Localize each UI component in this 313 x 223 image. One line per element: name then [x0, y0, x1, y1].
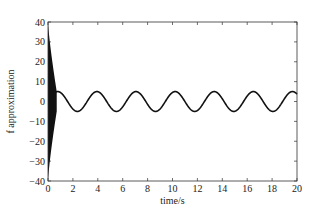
- y-tick-label: 0: [40, 96, 45, 107]
- y-tick-labels: −40−30−20−10010203040: [29, 17, 45, 187]
- x-tick-label: 8: [145, 183, 150, 194]
- x-tick-label: 12: [192, 183, 202, 194]
- chart: 02468101214161820 −40−30−20−10010203040 …: [0, 0, 313, 223]
- y-tick-label: −10: [29, 116, 45, 127]
- x-tick-labels: 02468101214161820: [46, 183, 303, 194]
- x-tick-label: 10: [168, 183, 178, 194]
- x-tick-label: 6: [120, 183, 125, 194]
- transient-envelope: [48, 22, 57, 181]
- y-axis-label: f approximation: [5, 69, 16, 133]
- x-tick-label: 2: [70, 183, 75, 194]
- y-tick-label: 20: [35, 56, 45, 67]
- y-tick-label: 10: [35, 76, 45, 87]
- axis-ticks: [48, 22, 297, 181]
- x-tick-label: 4: [95, 183, 100, 194]
- x-tick-label: 14: [217, 183, 227, 194]
- y-tick-label: −20: [29, 136, 45, 147]
- x-tick-label: 20: [292, 183, 302, 194]
- x-tick-label: 16: [242, 183, 252, 194]
- x-axis-label: time/s: [160, 195, 185, 206]
- data-line: [55, 92, 297, 112]
- y-tick-label: −40: [29, 176, 45, 187]
- y-tick-label: 40: [35, 17, 45, 28]
- y-tick-label: 30: [35, 36, 45, 47]
- y-tick-label: −30: [29, 156, 45, 167]
- plot-frame: [48, 22, 297, 181]
- x-tick-label: 18: [267, 183, 277, 194]
- x-tick-label: 0: [46, 183, 51, 194]
